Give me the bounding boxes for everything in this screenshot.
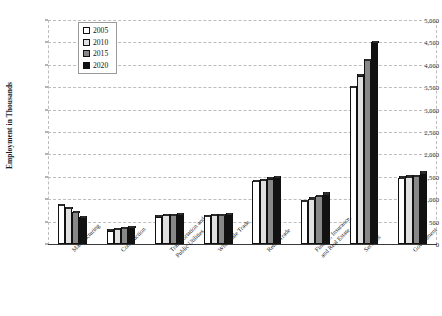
bar [371, 42, 378, 244]
bar [308, 199, 315, 244]
legend-item[interactable]: 2020 [83, 61, 108, 70]
bar [162, 215, 169, 244]
bar [301, 201, 308, 244]
bar-group [398, 20, 427, 244]
bar-chart: Employment in Thousands 5,0004,5004,0003… [0, 0, 442, 316]
legend-item-label: 2020 [93, 61, 108, 70]
legend-item-label: 2005 [93, 26, 108, 35]
bar [155, 217, 162, 244]
bar [107, 231, 114, 244]
legend-swatch-icon [83, 39, 90, 46]
bar [252, 181, 259, 244]
bar-group [155, 20, 184, 244]
bar [267, 179, 274, 244]
legend-item[interactable]: 2015 [83, 49, 108, 58]
bar [260, 180, 267, 244]
bar [65, 208, 72, 244]
legend-item-label: 2015 [93, 49, 108, 58]
gridline [48, 244, 437, 245]
bar [58, 205, 65, 244]
bar-group [252, 20, 281, 244]
legend-item-label: 2010 [93, 38, 108, 47]
bar-group [350, 20, 379, 244]
bar [413, 176, 420, 244]
y-axis-title-label: Employment in Thousands [6, 81, 15, 168]
legend-item[interactable]: 2005 [83, 26, 108, 35]
bar [364, 60, 371, 244]
bar [315, 196, 322, 244]
bar [357, 76, 364, 244]
bar [398, 178, 405, 244]
bar-group [301, 20, 330, 244]
bar-group [204, 20, 233, 244]
legend-swatch-icon [83, 27, 90, 34]
legend-swatch-icon [83, 62, 90, 69]
legend-item[interactable]: 2010 [83, 38, 108, 47]
bar [211, 215, 218, 244]
legend-swatch-icon [83, 50, 90, 57]
bar [405, 177, 412, 244]
legend: 2005201020152020 [78, 22, 117, 74]
bar [114, 229, 121, 244]
y-axis-title: Employment in Thousands [0, 0, 20, 250]
